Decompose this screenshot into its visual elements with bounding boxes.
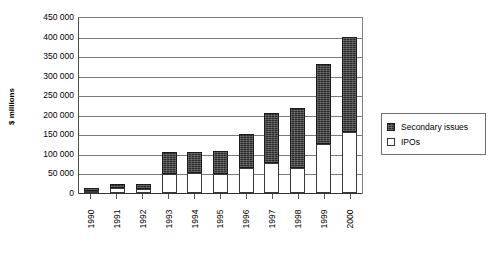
- bar-segment-secondary-issues: [213, 151, 228, 174]
- x-tick-label: 1993: [161, 199, 176, 245]
- bar-column: [342, 17, 357, 193]
- bar-segment-ipos: [290, 168, 305, 193]
- x-tick-label-text: 1993: [164, 210, 174, 229]
- legend-label-secondary-issues: Secondary issues: [401, 122, 468, 132]
- bar-column: [239, 17, 254, 193]
- x-axis-tick-labels: 1990199119921993199419951996199719981999…: [78, 199, 363, 245]
- y-tick-label: 300 000: [43, 71, 74, 80]
- y-tick-label: 450 000: [43, 13, 74, 22]
- x-tick-label: 1999: [317, 199, 332, 245]
- x-tick-label-text: 1998: [293, 210, 303, 229]
- bar-column: [84, 17, 99, 193]
- bar-segment-secondary-issues: [239, 134, 254, 169]
- chart-figure: $ millions 450 000400 000350 000300 0002…: [0, 0, 494, 268]
- legend-item-ipos: IPOs: [387, 134, 481, 149]
- bar-segment-ipos: [187, 173, 202, 193]
- bar-segment-secondary-issues: [187, 152, 202, 173]
- y-axis-tick-labels: 450 000400 000350 000300 000250 000200 0…: [22, 0, 74, 268]
- bar-segment-secondary-issues: [316, 64, 331, 144]
- y-tick-label: 350 000: [43, 52, 74, 61]
- legend-item-secondary-issues: Secondary issues: [387, 119, 481, 134]
- legend-label-ipos: IPOs: [401, 137, 420, 147]
- x-tick-label: 1994: [187, 199, 202, 245]
- x-tick-label-text: 1992: [138, 210, 148, 229]
- bar-column: [136, 17, 151, 193]
- x-tick-label: 1992: [135, 199, 150, 245]
- x-tick-label: 1995: [213, 199, 228, 245]
- y-tick-label: 200 000: [43, 111, 74, 120]
- bar-column: [264, 17, 279, 193]
- bar-segment-ipos: [84, 191, 99, 193]
- x-tick-label: 1998: [291, 199, 306, 245]
- y-axis-title: $ millions: [7, 72, 16, 142]
- x-tick-label: 1996: [239, 199, 254, 245]
- bar-series-group: [79, 17, 362, 193]
- bar-segment-secondary-issues: [290, 108, 305, 168]
- bar-segment-ipos: [342, 132, 357, 193]
- bar-segment-secondary-issues: [342, 37, 357, 132]
- x-tick-label-text: 1996: [241, 210, 251, 229]
- x-tick-label: 1991: [109, 199, 124, 245]
- bar-segment-ipos: [316, 144, 331, 193]
- bar-segment-ipos: [213, 174, 228, 193]
- x-tick-label: 2000: [343, 199, 358, 245]
- bar-column: [187, 17, 202, 193]
- x-tick-label: 1990: [83, 199, 98, 245]
- bar-column: [110, 17, 125, 193]
- bar-column: [162, 17, 177, 193]
- x-tick-label-text: 1994: [190, 210, 200, 229]
- bar-column: [213, 17, 228, 193]
- x-tick-label-text: 1999: [319, 210, 329, 229]
- x-tick-label-text: 1990: [86, 210, 96, 229]
- x-tick-label-text: 1997: [267, 210, 277, 229]
- plot-area: [78, 17, 363, 194]
- y-tick-label: 150 000: [43, 130, 74, 139]
- bar-segment-secondary-issues: [162, 152, 177, 174]
- bar-column: [316, 17, 331, 193]
- y-tick-label: 400 000: [43, 32, 74, 41]
- y-tick-label: 0: [69, 189, 74, 198]
- x-tick-label-text: 2000: [345, 210, 355, 229]
- y-tick-label: 100 000: [43, 150, 74, 159]
- legend-swatch-secondary-issues-icon: [387, 123, 395, 131]
- bar-segment-ipos: [110, 188, 125, 193]
- y-tick-label: 250 000: [43, 91, 74, 100]
- bar-segment-ipos: [136, 189, 151, 193]
- bar-segment-ipos: [264, 163, 279, 194]
- x-tick-label: 1997: [265, 199, 280, 245]
- chart-legend: Secondary issues IPOs: [381, 113, 486, 155]
- bar-segment-secondary-issues: [264, 113, 279, 163]
- bar-segment-ipos: [239, 168, 254, 193]
- legend-swatch-ipos-icon: [387, 138, 395, 146]
- x-tick-label-text: 1995: [215, 210, 225, 229]
- cropped-caption: [14, 258, 214, 268]
- x-tick-label-text: 1991: [112, 210, 122, 229]
- bar-segment-ipos: [162, 174, 177, 193]
- bar-column: [290, 17, 305, 193]
- y-tick-label: 50 000: [48, 169, 74, 178]
